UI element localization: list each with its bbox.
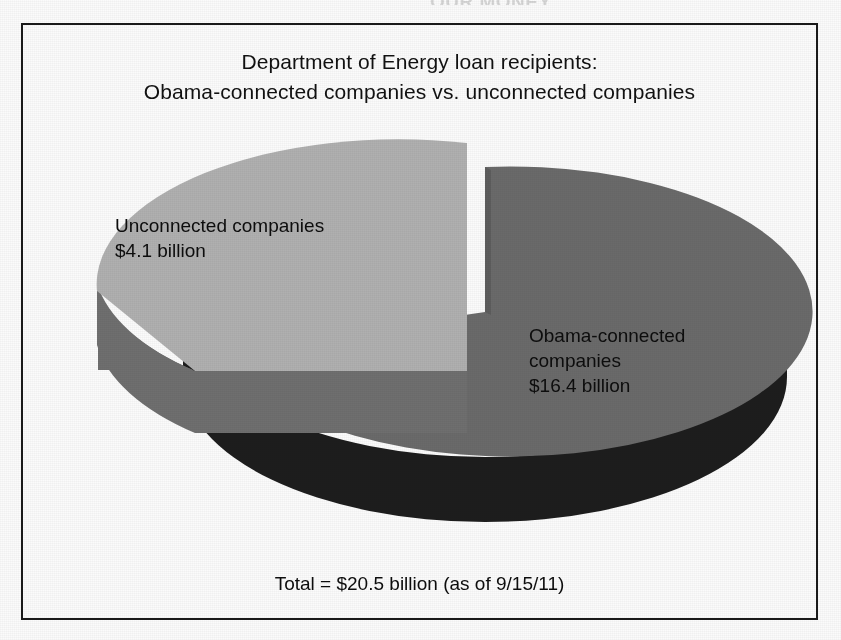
chart-frame: Department of Energy loan recipients: Ob… [21,23,818,620]
pie-chart-graphic [23,25,820,622]
slice-label-connected: Obama-connected companies $16.4 billion [529,323,685,398]
slice-connected-cut-face [485,167,491,315]
cropped-headline-remnant: OUR MONEY [430,0,810,5]
slice-label-unconnected: Unconnected companies $4.1 billion [115,213,324,263]
pie-svg [23,25,820,622]
total-caption: Total = $20.5 billion (as of 9/15/11) [23,573,816,595]
slice-unconnected-front-wall [195,371,467,433]
